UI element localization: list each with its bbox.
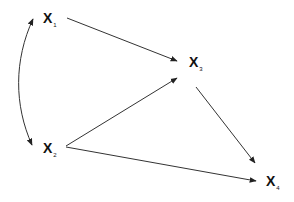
node-x4-label: X [266, 173, 275, 189]
edge-x2-x3 [66, 78, 177, 146]
node-x1-label: X [43, 10, 52, 26]
node-x1: X1 [43, 11, 57, 28]
edge-x1-x2-bidirected [19, 19, 33, 145]
node-x4-subscript: 4 [276, 185, 279, 191]
node-x2-label: X [43, 140, 52, 156]
edge-x3-x4 [196, 87, 255, 163]
node-x2-subscript: 2 [53, 152, 56, 158]
node-x4: X4 [266, 174, 280, 191]
edge-x1-x3 [67, 18, 177, 61]
node-x3-subscript: 3 [199, 66, 202, 72]
node-x3: X3 [189, 55, 203, 72]
node-x2: X2 [43, 141, 57, 158]
node-x3-label: X [189, 54, 198, 70]
diagram-canvas [0, 0, 294, 202]
edge-x2-x4 [66, 147, 256, 181]
node-x1-subscript: 1 [53, 22, 56, 28]
